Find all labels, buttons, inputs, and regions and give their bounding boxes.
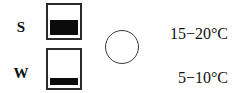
symbol-square-summer (46, 3, 82, 40)
row-label-winter: W (5, 66, 37, 81)
square-fill-bar-summer (50, 20, 78, 35)
temperature-label-winter: 5−10°C (120, 70, 228, 86)
symbol-square-winter (46, 48, 82, 90)
square-fill-bar-winter (50, 78, 78, 85)
legend-figure: S W 15−20°C 5−10°C (0, 0, 235, 93)
row-label-summer: S (8, 20, 34, 35)
temperature-label-summer: 15−20°C (120, 26, 228, 42)
